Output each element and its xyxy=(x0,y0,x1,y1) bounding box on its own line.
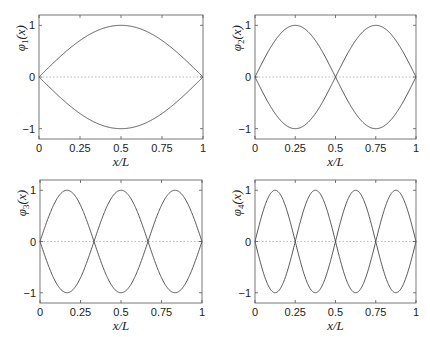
y-tick-label: 0 xyxy=(245,71,251,83)
y-tick-label: −1 xyxy=(238,123,251,135)
y-tick-label: −1 xyxy=(238,287,251,299)
x-tick-label: 0.5 xyxy=(113,306,128,318)
x-tick-label: 0.5 xyxy=(113,142,128,154)
x-tick-label: 0.75 xyxy=(151,306,172,318)
subplot-mode-2: 00.250.50.75110−1x/Lφ2(x) xyxy=(229,15,419,169)
x-tick-label: 0.5 xyxy=(328,142,343,154)
positive-mode-curve xyxy=(39,25,203,77)
y-axis-label: φ4(x) xyxy=(229,190,246,216)
y-tick-label: 1 xyxy=(245,184,251,196)
x-tick-label: 0 xyxy=(252,142,258,154)
x-tick-label: 1 xyxy=(413,306,419,318)
x-tick-label: 0.25 xyxy=(70,306,91,318)
x-tick-label: 0.25 xyxy=(285,142,306,154)
y-axis-label: φ3(x) xyxy=(14,190,31,216)
subplot-mode-3: 00.250.50.75110−1x/Lφ3(x) xyxy=(14,180,205,333)
y-tick-label: −1 xyxy=(22,123,35,135)
x-tick-label: 1 xyxy=(199,306,205,318)
subplot-mode-1: 00.250.50.75110−1x/Lφ1(x) xyxy=(13,15,206,169)
x-tick-label: 1 xyxy=(200,142,206,154)
y-tick-label: 0 xyxy=(29,71,35,83)
y-tick-label: 1 xyxy=(29,19,35,31)
x-tick-label: 0.25 xyxy=(69,142,90,154)
subplot-mode-4: 00.250.50.75110−1x/Lφ4(x) xyxy=(229,180,419,333)
negative-mode-curve xyxy=(39,77,203,129)
x-axis-label: x/L xyxy=(326,318,344,333)
x-tick-label: 1 xyxy=(413,142,419,154)
figure: 00.250.50.75110−1x/Lφ1(x)00.250.50.75110… xyxy=(0,0,430,337)
x-tick-label: 0 xyxy=(37,306,43,318)
x-tick-label: 0.5 xyxy=(328,306,343,318)
x-tick-label: 0.75 xyxy=(151,142,172,154)
y-axis-label: φ1(x) xyxy=(13,25,30,51)
x-axis-label: x/L xyxy=(326,154,344,169)
x-axis-label: x/L xyxy=(112,318,130,333)
x-tick-label: 0.25 xyxy=(285,306,306,318)
y-tick-label: 0 xyxy=(30,236,36,248)
y-tick-label: 1 xyxy=(245,19,251,31)
x-tick-label: 0.75 xyxy=(365,306,386,318)
y-tick-label: 0 xyxy=(245,236,251,248)
y-tick-label: 1 xyxy=(30,184,36,196)
y-axis-label: φ2(x) xyxy=(229,25,246,51)
x-tick-label: 0 xyxy=(36,142,42,154)
x-tick-label: 0.75 xyxy=(365,142,386,154)
y-tick-label: −1 xyxy=(23,287,36,299)
x-axis-label: x/L xyxy=(112,154,130,169)
x-tick-label: 0 xyxy=(252,306,258,318)
